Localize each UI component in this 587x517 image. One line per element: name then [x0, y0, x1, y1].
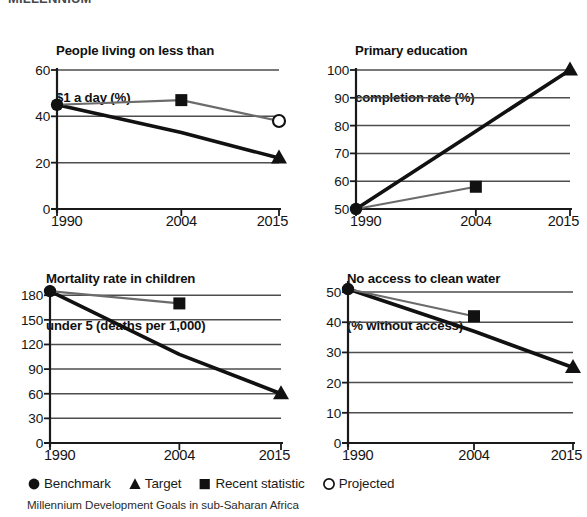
svg-text:100: 100	[327, 63, 350, 78]
legend-item-projected: Projected	[322, 476, 395, 491]
chart-legend: Benchmark Target Recent statistic Projec…	[27, 473, 411, 493]
svg-text:60: 60	[334, 174, 349, 189]
svg-text:1990: 1990	[44, 447, 75, 463]
svg-text:2015: 2015	[257, 213, 288, 229]
svg-text:120: 120	[21, 337, 44, 352]
millennium-goals-figure: People living on less than $1 a day (%) …	[0, 4, 587, 517]
svg-text:0: 0	[334, 436, 342, 451]
circle-open-marker	[273, 115, 285, 127]
chart-panel-water: No access to clean water (% without acce…	[293, 236, 586, 468]
circle-filled-marker	[51, 99, 63, 111]
svg-text:40: 40	[326, 315, 341, 330]
svg-text:1990: 1990	[350, 213, 381, 229]
svg-text:30: 30	[326, 345, 341, 360]
svg-text:2004: 2004	[460, 213, 491, 229]
square-filled-marker	[468, 310, 480, 322]
svg-text:150: 150	[21, 313, 44, 328]
circle-open-icon	[322, 476, 336, 490]
chart-panel-education: Primary education completion rate (%) 50…	[293, 4, 586, 236]
svg-text:90: 90	[334, 91, 349, 106]
square-filled-marker	[173, 297, 185, 309]
svg-text:60: 60	[28, 387, 43, 402]
figure-caption: Millennium Development Goals in sub-Saha…	[27, 498, 299, 511]
svg-text:50: 50	[334, 202, 349, 217]
svg-text:2004: 2004	[458, 447, 489, 463]
chart-svg-poverty: 0204060199020042015	[0, 4, 293, 236]
svg-text:60: 60	[35, 63, 50, 78]
svg-text:10: 10	[326, 406, 341, 421]
circle-filled-marker	[342, 283, 354, 295]
chart-svg-water: 01020304050199020042015	[293, 236, 586, 468]
svg-text:30: 30	[28, 411, 43, 426]
svg-text:20: 20	[326, 376, 341, 391]
svg-text:2015: 2015	[548, 213, 579, 229]
svg-text:40: 40	[35, 109, 50, 124]
chart-svg-education: 5060708090100199020042015	[293, 4, 586, 236]
chart-panel-poverty: People living on less than $1 a day (%) …	[0, 4, 293, 236]
legend-label-recent-statistic: Recent statistic	[215, 476, 304, 491]
svg-text:1990: 1990	[342, 447, 373, 463]
charts-grid: People living on less than $1 a day (%) …	[0, 4, 587, 469]
svg-text:2015: 2015	[551, 447, 582, 463]
legend-label-projected: Projected	[339, 476, 395, 491]
circle-filled-icon	[27, 476, 41, 490]
chart-svg-mortality: 0306090120150180199020042015	[0, 236, 293, 468]
square-filled-icon	[198, 476, 212, 490]
triangle-filled-icon	[128, 476, 142, 490]
svg-text:50: 50	[326, 285, 341, 300]
svg-text:1990: 1990	[51, 213, 82, 229]
legend-item-benchmark: Benchmark	[27, 476, 111, 491]
circle-filled-marker	[350, 203, 362, 215]
svg-text:180: 180	[21, 288, 44, 303]
square-filled-marker	[470, 181, 482, 193]
svg-text:80: 80	[334, 119, 349, 134]
triangle-filled-marker	[562, 62, 578, 76]
circle-filled-marker	[44, 285, 56, 297]
svg-text:70: 70	[334, 146, 349, 161]
svg-text:2004: 2004	[166, 213, 197, 229]
legend-item-target: Target	[128, 476, 182, 491]
square-filled-marker	[175, 94, 187, 106]
svg-text:2004: 2004	[164, 447, 195, 463]
svg-text:2015: 2015	[259, 447, 290, 463]
legend-label-benchmark: Benchmark	[44, 476, 111, 491]
svg-text:20: 20	[35, 156, 50, 171]
svg-text:0: 0	[43, 202, 51, 217]
legend-label-target: Target	[145, 476, 182, 491]
chart-panel-mortality: Mortality rate in children under 5 (deat…	[0, 236, 293, 468]
svg-text:0: 0	[36, 436, 44, 451]
legend-item-recent-statistic: Recent statistic	[198, 476, 304, 491]
svg-text:90: 90	[28, 362, 43, 377]
